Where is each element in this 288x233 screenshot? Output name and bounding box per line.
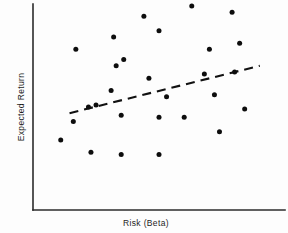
data-point xyxy=(164,94,169,99)
data-point xyxy=(58,137,63,142)
plot-canvas xyxy=(0,0,288,233)
data-point xyxy=(88,150,93,155)
scatter-plot-figure: Expected Return Risk (Beta) xyxy=(0,0,288,233)
data-point xyxy=(232,69,237,74)
data-point xyxy=(121,57,126,62)
axes-group xyxy=(33,4,285,210)
data-point xyxy=(73,47,78,52)
data-point xyxy=(114,63,119,68)
data-point xyxy=(217,129,222,134)
data-point xyxy=(189,4,194,9)
data-point xyxy=(157,152,162,157)
x-axis-label: Risk (Beta) xyxy=(123,219,169,228)
data-point xyxy=(94,102,99,107)
data-point xyxy=(207,47,212,52)
data-point xyxy=(157,28,162,33)
data-point xyxy=(242,107,247,112)
data-point xyxy=(86,105,91,110)
data-point xyxy=(237,41,242,46)
data-point xyxy=(182,115,187,120)
data-points-group xyxy=(58,4,247,157)
data-point xyxy=(146,76,151,81)
data-point xyxy=(202,72,207,77)
data-point xyxy=(109,88,114,93)
data-point xyxy=(111,34,116,39)
data-point xyxy=(71,119,76,124)
data-point xyxy=(157,115,162,120)
y-axis-label: Expected Return xyxy=(17,52,26,162)
data-point xyxy=(141,14,146,19)
data-point xyxy=(230,10,235,15)
data-point xyxy=(212,92,217,97)
data-point xyxy=(119,152,124,157)
data-point xyxy=(119,113,124,118)
